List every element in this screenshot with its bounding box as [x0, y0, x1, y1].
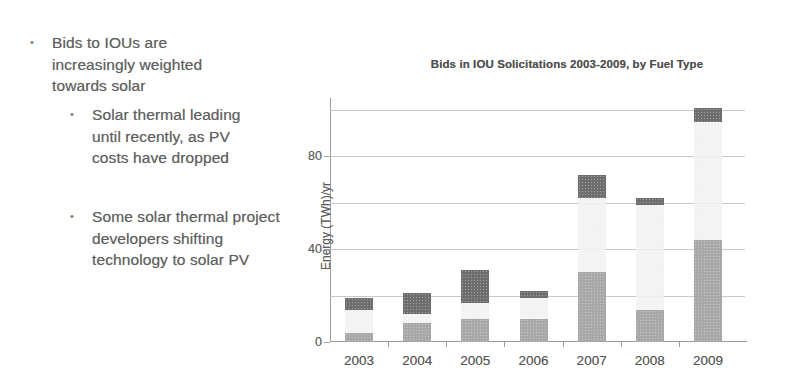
y-axis-tick-label: 80: [308, 149, 322, 163]
x-axis-tick: [446, 342, 447, 347]
bullet-marker-icon: •: [30, 32, 52, 53]
x-axis-tick: [679, 342, 680, 347]
bar-segment[interactable]: [461, 303, 489, 319]
bar-segment[interactable]: [403, 293, 431, 314]
x-axis-tick-label: 2004: [402, 353, 432, 368]
bar-group[interactable]: [403, 110, 431, 342]
y-axis-tick: [324, 249, 330, 250]
bar-group[interactable]: [694, 110, 722, 342]
x-axis-tick: [563, 342, 564, 347]
y-axis-tick: [324, 342, 330, 343]
bar-group[interactable]: [636, 110, 664, 342]
bullet-marker-icon: •: [70, 206, 92, 227]
x-axis-tick: [621, 342, 622, 347]
bar-group[interactable]: [578, 110, 606, 342]
y-axis-tick-label: 40: [308, 242, 322, 256]
x-axis-tick-label: 2009: [693, 353, 723, 368]
x-axis-tick-label: 2003: [344, 353, 374, 368]
bullet-item: • Bids to IOUs are increasingly weighted…: [30, 32, 240, 97]
stacked-bar-chart: Bids in IOU Solicitations 2003-2009, by …: [312, 0, 806, 370]
y-axis-tick-label: 0: [315, 335, 322, 349]
bar-segment[interactable]: [694, 108, 722, 122]
x-axis-tick: [504, 342, 505, 347]
bar-segment[interactable]: [520, 291, 548, 298]
slide-bullet-list: • Bids to IOUs are increasingly weighted…: [0, 0, 312, 370]
bar-segment[interactable]: [461, 270, 489, 302]
bar-segment[interactable]: [345, 298, 373, 310]
bar-segment[interactable]: [578, 272, 606, 342]
x-axis-tick-label: 2006: [518, 353, 548, 368]
bar-segment[interactable]: [578, 198, 606, 272]
bar-segment[interactable]: [694, 240, 722, 342]
bar-segment[interactable]: [694, 122, 722, 240]
chart-title: Bids in IOU Solicitations 2003-2009, by …: [342, 58, 792, 70]
bar-segment[interactable]: [520, 298, 548, 319]
bar-segment[interactable]: [578, 175, 606, 198]
x-axis-tick-label: 2007: [577, 353, 607, 368]
bar-segment[interactable]: [636, 198, 664, 205]
bar-segment[interactable]: [345, 333, 373, 342]
bullet-item: • Solar thermal leading until recently, …: [70, 104, 270, 169]
bullet-marker-icon: •: [70, 104, 92, 125]
bullet-text: Solar thermal leading until recently, as…: [92, 104, 270, 169]
x-axis-tick: [388, 342, 389, 347]
y-axis-tick: [324, 156, 330, 157]
bar-segment[interactable]: [636, 310, 664, 342]
bar-segment[interactable]: [403, 323, 431, 342]
bar-group[interactable]: [461, 110, 489, 342]
bar-group[interactable]: [345, 110, 373, 342]
bar-segment[interactable]: [403, 314, 431, 323]
x-axis-tick-label: 2008: [635, 353, 665, 368]
bar-segment[interactable]: [345, 310, 373, 333]
bullet-text: Some solar thermal project developers sh…: [92, 206, 285, 271]
bullet-item: • Some solar thermal project developers …: [70, 206, 285, 271]
plot-area: Energy (TWh)/yr 04080 200320042005200620…: [330, 110, 737, 342]
x-axis-tick-label: 2005: [460, 353, 490, 368]
y-axis-title: Energy (TWh)/yr: [319, 182, 333, 270]
bar-group[interactable]: [520, 110, 548, 342]
bullet-text: Bids to IOUs are increasingly weighted t…: [52, 32, 240, 97]
bar-segment[interactable]: [636, 205, 664, 309]
bar-segment[interactable]: [520, 319, 548, 342]
bar-segment[interactable]: [461, 319, 489, 342]
